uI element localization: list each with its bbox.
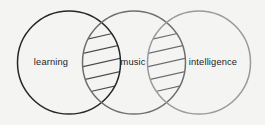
hatch-line [127, 27, 207, 45]
hatch-line [62, 40, 142, 58]
set-label-music: music [120, 57, 145, 67]
hatch-line [127, 40, 207, 58]
hatch-line [127, 67, 207, 85]
set-label-learning: learning [34, 57, 68, 67]
hatch-line [62, 80, 142, 98]
hatch-line [127, 80, 207, 98]
hatch-line [62, 27, 142, 45]
venn-diagram: learning music intelligence [0, 0, 265, 125]
set-label-intelligence: intelligence [189, 57, 237, 67]
diagram-canvas: learning music intelligence [0, 0, 265, 125]
hatch-line [62, 67, 142, 85]
